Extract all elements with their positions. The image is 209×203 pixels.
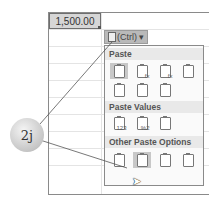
leader-line-to-ctrl [40, 42, 112, 124]
mouse-pointer-icon: ➤ [132, 175, 141, 188]
step-callout: 2j [10, 118, 44, 152]
leader-line-to-paste-link [40, 140, 127, 168]
callout-leader-lines [0, 0, 209, 203]
